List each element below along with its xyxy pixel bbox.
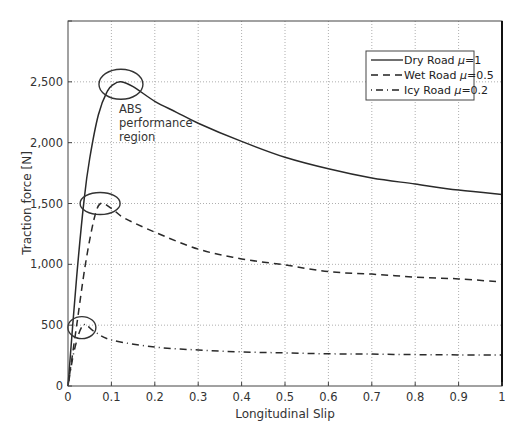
y-tick-label: 2,000 bbox=[30, 136, 63, 150]
traction-force-chart: 00.10.20.30.40.50.60.70.80.91 05001,0001… bbox=[0, 0, 521, 432]
legend-label-wet: Wet Road μ=0.5 bbox=[404, 69, 494, 82]
y-tick-label: 2,500 bbox=[30, 75, 63, 89]
x-tick-label: 0.5 bbox=[276, 390, 294, 404]
annotation-line-1: ABS bbox=[119, 102, 142, 116]
x-tick-label: 0.3 bbox=[189, 390, 207, 404]
annotation-line-3: region bbox=[119, 130, 155, 144]
annotation-line-2: performance bbox=[119, 116, 193, 130]
legend: Dry Road μ=1 Wet Road μ=0.5 Icy Road μ=0… bbox=[366, 51, 494, 100]
x-axis-label: Longitudinal Slip bbox=[235, 407, 335, 421]
x-tick-label: 0.9 bbox=[449, 390, 467, 404]
x-tick-label: 1 bbox=[498, 390, 505, 404]
y-tick-label: 1,500 bbox=[30, 197, 63, 211]
x-tick-label: 0.2 bbox=[146, 390, 164, 404]
x-tick-label: 0.8 bbox=[406, 390, 424, 404]
legend-label-dry: Dry Road μ=1 bbox=[404, 54, 481, 67]
y-tick-label: 0 bbox=[56, 379, 63, 393]
y-tick-label: 500 bbox=[41, 318, 63, 332]
y-tick-label: 1,000 bbox=[30, 257, 63, 271]
x-tick-label: 0.1 bbox=[102, 390, 120, 404]
y-axis-label: Traction force [N] bbox=[20, 151, 34, 256]
legend-label-icy: Icy Road μ=0.2 bbox=[404, 84, 488, 97]
x-tick-label: 0 bbox=[64, 390, 71, 404]
x-tick-label: 0.4 bbox=[232, 390, 250, 404]
x-tick-label: 0.6 bbox=[319, 390, 337, 404]
x-tick-label: 0.7 bbox=[363, 390, 381, 404]
